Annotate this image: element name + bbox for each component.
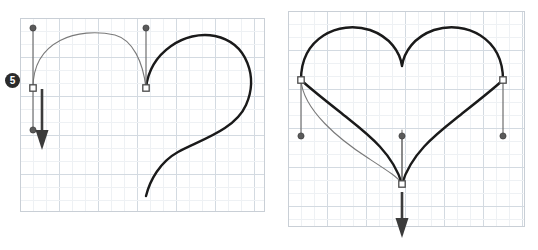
right-panel-anchor-right[interactable] xyxy=(500,77,506,83)
left-panel-active-path xyxy=(146,35,251,196)
left-panel-anchor-left[interactable] xyxy=(30,85,36,91)
handle-left-down-dot[interactable] xyxy=(298,133,304,139)
tutorial-figure: 5 xyxy=(0,0,538,250)
right-panel-drag-arrow-down-head xyxy=(396,218,409,238)
handle-left-up-dot[interactable] xyxy=(30,25,36,31)
step-number-badge: 5 xyxy=(5,73,20,88)
vector-art-overlay xyxy=(0,0,538,250)
right-panel-anchor-bottom[interactable] xyxy=(399,181,405,187)
right-panel-anchor-left[interactable] xyxy=(298,77,304,83)
right-panel-preview-path xyxy=(301,80,402,184)
handle-right-down-dot[interactable] xyxy=(500,133,506,139)
left-panel-preview-path xyxy=(33,33,146,88)
handle-center-up-dot[interactable] xyxy=(143,25,149,31)
left-panel-anchor-center[interactable] xyxy=(143,85,149,91)
handle-bottom-up-dot[interactable] xyxy=(399,133,405,139)
left-panel-drag-arrow-down-head xyxy=(36,130,49,150)
handle-left-down-dot[interactable] xyxy=(30,127,36,133)
